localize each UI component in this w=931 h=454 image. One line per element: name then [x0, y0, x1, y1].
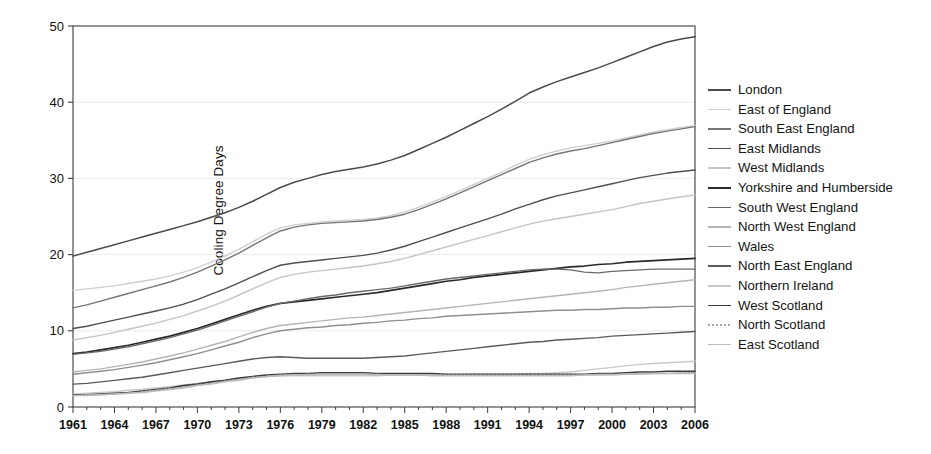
legend-item-label: East Midlands	[738, 139, 821, 159]
x-axis-ticks	[73, 407, 695, 413]
x-tick-label: 1970	[183, 418, 211, 432]
legend-swatch-icon	[708, 109, 731, 111]
legend-item[interactable]: South East England	[708, 119, 923, 139]
legend-item-label: South West England	[738, 198, 858, 218]
legend-swatch-icon	[708, 246, 731, 248]
x-tick-label: 1961	[59, 418, 87, 432]
legend-swatch-icon	[708, 265, 731, 267]
legend-swatch-icon	[708, 344, 731, 346]
x-tick-label: 1991	[474, 418, 502, 432]
x-tick-label: 2003	[640, 418, 668, 432]
legend-swatch-icon	[708, 187, 731, 189]
x-tick-label: 1967	[142, 418, 170, 432]
legend-swatch-icon	[708, 148, 731, 150]
series-line-south-west-england	[73, 269, 695, 354]
legend-item[interactable]: London	[708, 80, 923, 100]
y-tick-label: 0	[57, 400, 64, 415]
x-tick-label: 2000	[598, 418, 626, 432]
legend-item[interactable]: East of England	[708, 100, 923, 120]
series-line-london	[73, 37, 695, 256]
x-tick-label: 2006	[681, 418, 709, 432]
x-tick-labels: 1961196419671970197319761979198219851988…	[59, 418, 709, 432]
legend-item[interactable]: South West England	[708, 198, 923, 218]
x-tick-label: 1988	[432, 418, 460, 432]
x-tick-label: 1997	[557, 418, 585, 432]
y-tick-label: 40	[50, 95, 64, 110]
legend-swatch-icon	[708, 89, 731, 91]
y-tick-label: 30	[50, 171, 64, 186]
y-axis-ticks	[68, 26, 73, 407]
x-tick-label: 1982	[349, 418, 377, 432]
series-line-wales	[73, 306, 695, 374]
x-tick-label: 1985	[391, 418, 419, 432]
legend-item[interactable]: North Scotland	[708, 315, 923, 335]
series-lines	[73, 37, 695, 396]
legend-swatch-icon	[708, 285, 731, 287]
y-tick-labels: 01020304050	[50, 19, 64, 415]
legend-item-label: East Scotland	[738, 335, 819, 355]
legend: LondonEast of EnglandSouth East EnglandE…	[708, 80, 923, 354]
series-line-east-of-england	[73, 126, 695, 291]
legend-swatch-icon	[708, 226, 731, 228]
legend-item-label: South East England	[738, 119, 855, 139]
x-tick-label: 1964	[101, 418, 129, 432]
legend-item-label: North Scotland	[738, 315, 825, 335]
series-line-east-midlands	[73, 170, 695, 328]
y-tick-label: 20	[50, 247, 64, 262]
legend-item-label: North West England	[738, 217, 856, 237]
series-line-east-scotland	[73, 373, 695, 395]
legend-item[interactable]: West Midlands	[708, 158, 923, 178]
x-tick-label: 1994	[515, 418, 543, 432]
legend-item[interactable]: West Scotland	[708, 296, 923, 316]
legend-item[interactable]: Yorkshire and Humberside	[708, 178, 923, 198]
legend-item-label: Yorkshire and Humberside	[738, 178, 893, 198]
x-tick-label: 1979	[308, 418, 336, 432]
legend-item[interactable]: North West England	[708, 217, 923, 237]
y-tick-label: 50	[50, 19, 64, 34]
series-line-north-west-england	[73, 280, 695, 372]
legend-item[interactable]: North East England	[708, 256, 923, 276]
legend-item[interactable]: East Scotland	[708, 335, 923, 355]
legend-item-label: Northern Ireland	[738, 276, 833, 296]
legend-swatch-icon	[708, 167, 731, 169]
legend-item[interactable]: Northern Ireland	[708, 276, 923, 296]
series-line-north-east-england	[73, 332, 695, 385]
legend-item[interactable]: Wales	[708, 237, 923, 257]
x-tick-label: 1976	[266, 418, 294, 432]
legend-item-label: West Scotland	[738, 296, 823, 316]
legend-swatch-icon	[708, 324, 731, 326]
y-tick-label: 10	[50, 323, 64, 338]
series-line-north-scotland	[73, 373, 695, 396]
x-tick-label: 1973	[225, 418, 253, 432]
legend-item-label: East of England	[738, 100, 831, 120]
legend-item[interactable]: East Midlands	[708, 139, 923, 159]
legend-item-label: North East England	[738, 256, 852, 276]
legend-item-label: West Midlands	[738, 158, 824, 178]
legend-swatch-icon	[708, 128, 731, 130]
chart-figure: Cooling Degree Days 01020304050 19611964…	[0, 0, 931, 454]
legend-swatch-icon	[708, 207, 731, 209]
legend-item-label: London	[738, 80, 782, 100]
legend-swatch-icon	[708, 305, 731, 307]
legend-item-label: Wales	[738, 237, 774, 257]
